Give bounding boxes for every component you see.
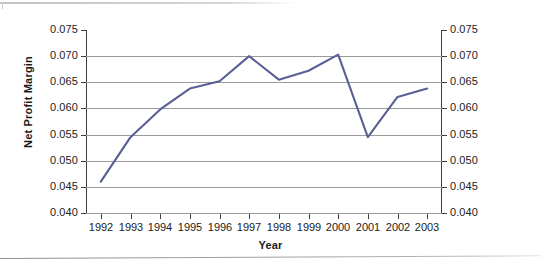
x-axis-tick [279,214,280,219]
x-axis-tick [338,214,339,219]
x-axis-tick [220,214,221,219]
x-axis-label: 1995 [178,221,202,233]
y-axis-title: Net Profit Margin [22,56,34,148]
x-axis-tick [398,214,399,219]
x-axis-tick [190,214,191,219]
y-axis-label-right: 0.050 [450,154,478,166]
x-axis-tick [160,214,161,219]
y-axis-label-left: 0.070 [50,49,78,61]
y-axis-label-left: 0.050 [50,154,78,166]
y-axis-label-right: 0.045 [450,180,478,192]
y-axis-tick-right [442,30,447,31]
y-axis-tick-right [442,108,447,109]
x-axis-label: 1998 [267,221,291,233]
y-axis-label-left: 0.055 [50,128,78,140]
x-axis-label: 1992 [89,221,113,233]
y-axis-tick-right [442,213,447,214]
x-axis-tick [368,214,369,219]
x-axis-label: 2003 [415,221,439,233]
y-axis-tick-right [442,56,447,57]
net-profit-margin-line-chart: 0.0750.0750.0700.0700.0650.0650.0600.060… [0,0,541,270]
y-axis-label-left: 0.040 [50,206,78,218]
y-axis-label-right: 0.055 [450,128,478,140]
x-axis-tick [309,214,310,219]
x-axis-tick [427,214,428,219]
x-axis-label: 1993 [119,221,143,233]
y-axis-label-left: 0.045 [50,180,78,192]
x-axis-label: 2000 [326,221,350,233]
y-axis-label-right: 0.065 [450,75,478,87]
x-axis-tick [101,214,102,219]
x-axis-tick [249,214,250,219]
y-axis-label-right: 0.070 [450,49,478,61]
x-axis-label: 1997 [237,221,261,233]
x-axis-label: 1996 [208,221,232,233]
series-plot-area [86,30,442,214]
net-profit-margin-line [101,55,427,182]
y-axis-tick-right [442,161,447,162]
y-axis-label-left: 0.075 [50,23,78,35]
x-axis-label: 2002 [386,221,410,233]
x-axis-label: 1999 [297,221,321,233]
y-axis-label-left: 0.065 [50,75,78,87]
x-axis-label: 1994 [148,221,172,233]
y-axis-tick-right [442,82,447,83]
y-axis-label-left: 0.060 [50,101,78,113]
x-axis-title: Year [0,239,541,251]
y-axis-label-right: 0.060 [450,101,478,113]
x-axis-label: 2001 [356,221,380,233]
y-axis-label-right: 0.075 [450,23,478,35]
y-axis-tick-right [442,135,447,136]
x-axis-tick [131,214,132,219]
y-axis-label-right: 0.040 [450,206,478,218]
y-axis-tick-right [442,187,447,188]
